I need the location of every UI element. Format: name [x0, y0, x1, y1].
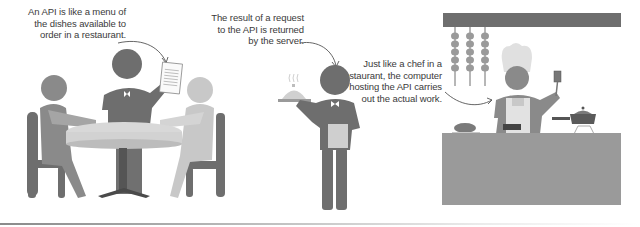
grill-tray-icon — [503, 124, 521, 130]
chef-icon — [494, 43, 560, 134]
spatula-icon — [554, 71, 561, 96]
scene-kitchen — [0, 0, 640, 227]
arrow-to-chef-icon — [445, 92, 492, 105]
frying-pan-icon — [552, 107, 596, 135]
skewers-icon — [451, 27, 489, 86]
hanging-rack-icon — [443, 13, 621, 27]
kitchen-counter-icon — [442, 133, 621, 205]
section-divider — [0, 223, 640, 225]
meat-plate-icon — [452, 123, 480, 134]
